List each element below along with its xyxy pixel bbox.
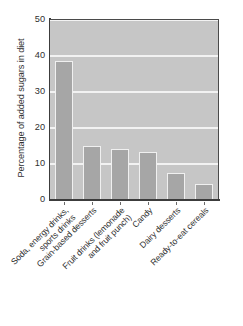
- gridline: [50, 91, 218, 92]
- x-tick-mark: [64, 202, 65, 205]
- plot-inner: [50, 20, 218, 200]
- bar: [195, 184, 213, 200]
- bar: [83, 146, 101, 200]
- y-tick-label: 30: [25, 86, 45, 96]
- x-tick-mark: [148, 202, 149, 205]
- bar: [111, 149, 129, 200]
- bar-chart-figure: Percentage of added sugars in diet 01020…: [0, 0, 243, 326]
- x-tick-mark: [204, 202, 205, 205]
- x-tick-mark: [176, 202, 177, 205]
- bar: [139, 152, 157, 200]
- y-tick-label: 40: [25, 50, 45, 60]
- y-tick-label: 20: [25, 122, 45, 132]
- y-tick-label: 10: [25, 158, 45, 168]
- gridline: [50, 55, 218, 56]
- y-axis-tick-labels: 01020304050: [25, 19, 45, 199]
- gridline: [50, 163, 218, 164]
- bar: [55, 61, 73, 200]
- y-tick-label: 50: [25, 14, 45, 24]
- x-tick-mark: [92, 202, 93, 205]
- x-axis-category-labels: Soda, energy drinks, sports drinksGrain-…: [0, 199, 243, 326]
- gridline: [50, 127, 218, 128]
- plot-area: [50, 19, 219, 200]
- gridline: [50, 20, 218, 21]
- x-tick-mark: [120, 202, 121, 205]
- bar: [167, 173, 185, 200]
